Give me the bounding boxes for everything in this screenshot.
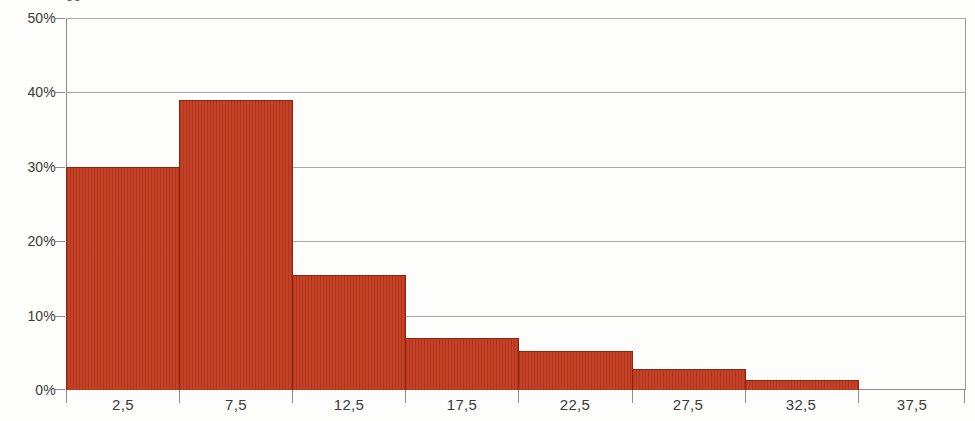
- histogram-chart: gg 50% 40% 30% 20% 10% 0%: [0, 0, 975, 421]
- x-tick-label-17-5: 17,5: [447, 396, 477, 413]
- x-tick-label-32-5: 32,5: [786, 396, 816, 413]
- x-tick-label-27-5: 27,5: [673, 396, 703, 413]
- x-axis-labels: 2,5 7,5 12,5 17,5 22,5 27,5 32,5 37,5: [0, 0, 975, 421]
- x-tick-label-12-5: 12,5: [334, 396, 364, 413]
- x-tick-label-2-5: 2,5: [112, 396, 134, 413]
- x-tick-label-22-5: 22,5: [560, 396, 590, 413]
- x-tick-label-37-5: 37,5: [897, 396, 927, 413]
- x-tick-label-7-5: 7,5: [225, 396, 247, 413]
